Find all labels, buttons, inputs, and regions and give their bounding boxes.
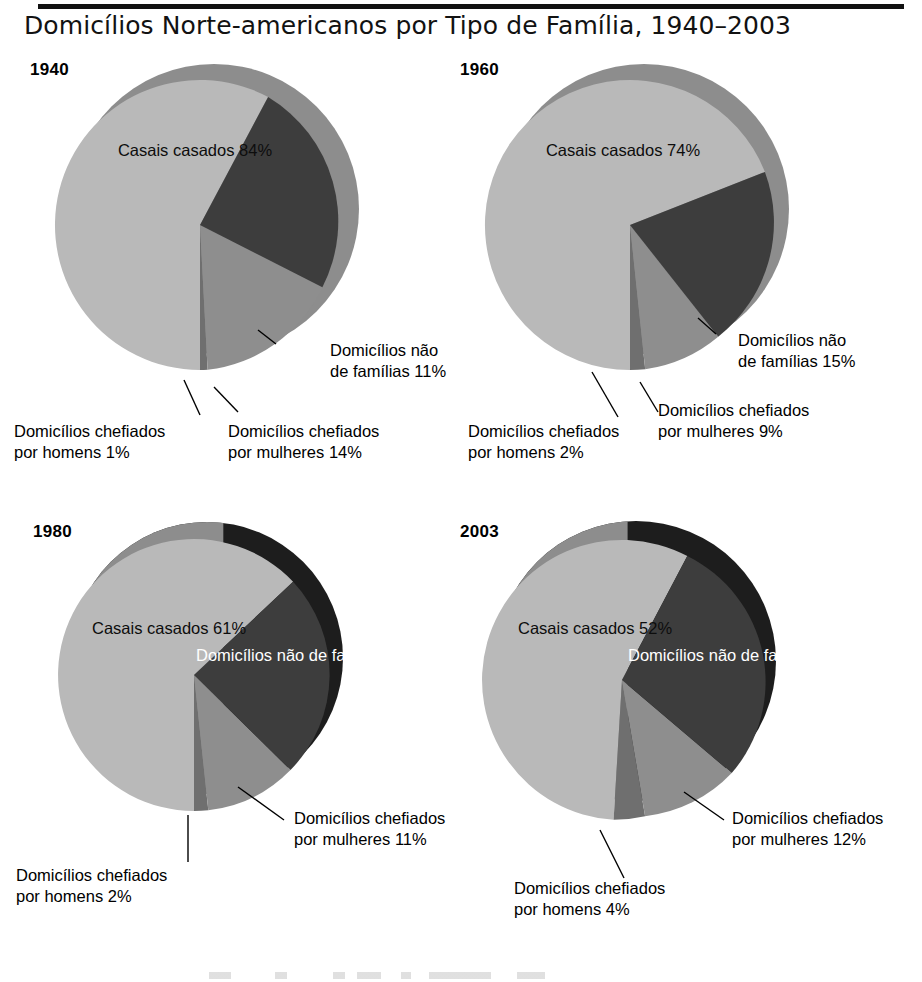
callout-line-1: Domicílios chefiados (294, 808, 445, 829)
label-value: 26% (393, 646, 426, 664)
callout-women-1940: Domicílios chefiados por mulheres 14% (228, 421, 379, 462)
pie-slices-1940 (55, 72, 355, 372)
callout-women-2003: Domicílios chefiados por mulheres 12% (732, 808, 883, 849)
callout-line-1: Domicílios não (330, 340, 446, 361)
callout-line-1: Domicílios não (738, 330, 855, 351)
callout-line-1: Domicílios chefiados (228, 421, 379, 442)
callout-line-2: por mulheres 12% (732, 829, 883, 850)
callout-line-1: Domicílios chefiados (468, 421, 619, 442)
callout-line-1: Domicílios chefiados (658, 400, 809, 421)
pie-slices-1980 (58, 530, 343, 815)
figure-root: Domicílios Norte-americanos por Tipo de … (0, 0, 922, 982)
panel-2003: 2003 Casais casados 52% Domicílios não d… (440, 490, 922, 982)
callout-men-1960: Domicílios chefiados por homens 2% (468, 421, 619, 462)
callout-line-2: de famílias 15% (738, 351, 855, 372)
callout-line-2: por homens 4% (514, 899, 665, 920)
callout-men-1940: Domicílios chefiados por homens 1% (14, 421, 165, 462)
callout-women-1960: Domicílios chefiados por mulheres 9% (658, 400, 809, 441)
callout-men-2003: Domicílios chefiados por homens 4% (514, 878, 665, 919)
pie-slices-1960 (485, 72, 785, 372)
callout-line-1: Domicílios chefiados (732, 808, 883, 829)
panel-1980: 1980 Casais casados 61% Domicílios não d… (0, 490, 460, 982)
callout-nonfamily-1940: Domicílios não de famílias 11% (330, 340, 446, 381)
callout-men-1980: Domicílios chefiados por homens 2% (16, 865, 167, 906)
callout-line-2: por homens 2% (16, 886, 167, 907)
label-value: 32% (825, 646, 858, 664)
pie-2003 (482, 530, 777, 825)
pie-1940 (55, 72, 355, 372)
panel-1960: 1960 Casais casados 74% Domicílio (440, 0, 922, 480)
callout-line-2: por mulheres 11% (294, 829, 445, 850)
callout-line-1: Domicílios chefiados (16, 865, 167, 886)
pie-1960 (485, 72, 785, 372)
callout-nonfamily-1960: Domicílios não de famílias 15% (738, 330, 855, 371)
callout-line-2: de famílias 11% (330, 361, 446, 382)
callout-line-1: Domicílios chefiados (514, 878, 665, 899)
pie-1980 (58, 530, 343, 815)
callout-line-2: por homens 2% (468, 442, 619, 463)
callout-line-2: por mulheres 14% (228, 442, 379, 463)
pie-slices-2003 (482, 530, 777, 825)
callout-line-2: por homens 1% (14, 442, 165, 463)
panel-1940: 1940 Casais casados 84% (0, 0, 460, 480)
page-bottom-remnant (205, 972, 545, 979)
callout-women-1980: Domicílios chefiados por mulheres 11% (294, 808, 445, 849)
callout-line-1: Domicílios chefiados (14, 421, 165, 442)
callout-line-2: por mulheres 9% (658, 421, 809, 442)
